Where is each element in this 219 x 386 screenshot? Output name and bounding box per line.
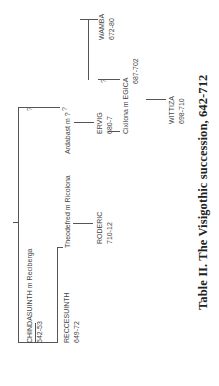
wittiza-label: WITTIZA	[168, 96, 176, 124]
roderic-dates: 710-12	[106, 222, 114, 244]
wamba-trunk	[88, 20, 89, 80]
egica-dates: 687-702	[132, 58, 140, 84]
theodefred-drop	[57, 247, 63, 248]
wittiza-line	[146, 99, 166, 100]
roderic-line	[73, 223, 93, 224]
unknown-parent-marker: ?	[26, 107, 34, 111]
wamba-label: WAMBA	[98, 14, 106, 40]
roderic-label: RODERIC	[96, 212, 104, 244]
theodefred-label: Theodefred m Ricolona	[64, 175, 72, 248]
ardabast-label: Ardabast m ?	[64, 112, 72, 154]
ervig-label: ERVIG	[96, 112, 104, 134]
egica-unknown-marker: ?	[100, 79, 108, 83]
table-caption: Table II. The Visigothic succession, 642…	[196, 75, 211, 310]
chindasuinth-label: CHINDASUINTH m Reciberga	[26, 248, 34, 343]
reccesuinth-dates: 649-72	[73, 321, 81, 343]
chindasuinth-dates: 642-53	[36, 321, 44, 343]
children-drop	[35, 342, 57, 343]
ervig-line	[74, 122, 94, 123]
children-bar	[57, 248, 58, 343]
genealogy-diagram: CHINDASUINTH m Reciberga 642-53 RECCESUI…	[0, 0, 219, 386]
wamba-connector	[80, 19, 98, 20]
unknown-branch-line	[18, 107, 60, 108]
unknown-child-marker: ?	[61, 107, 69, 111]
trunk-tick	[13, 222, 18, 223]
chindasuinth-children-line	[35, 323, 36, 343]
cixilona-label: Cixilona m EGICA	[122, 78, 130, 134]
wittiza-dates: 698-710	[178, 98, 186, 124]
reccesuinth-label: RECCESUINTH	[63, 292, 71, 343]
wamba-dates: 672-80	[108, 18, 116, 40]
trunk-line	[18, 107, 19, 343]
cixilona-line	[108, 131, 120, 132]
